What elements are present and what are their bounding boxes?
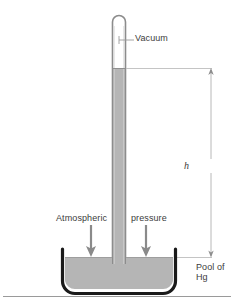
pool-of-hg-line1: Pool of (196, 262, 225, 272)
atmospheric-label: Atmospheric (56, 213, 107, 223)
pressure-label: pressure (131, 213, 167, 223)
height-symbol-label: h (184, 161, 189, 171)
dimension-label-gap (206, 159, 217, 173)
pool-of-hg-line2: Hg (196, 272, 225, 282)
pool-of-hg-label: Pool of Hg (196, 262, 225, 282)
mercury-column (113, 68, 125, 264)
barometer-figure: Vacuum Atmospheric pressure h Pool of Hg (0, 0, 234, 308)
vacuum-label: Vacuum (135, 33, 168, 43)
